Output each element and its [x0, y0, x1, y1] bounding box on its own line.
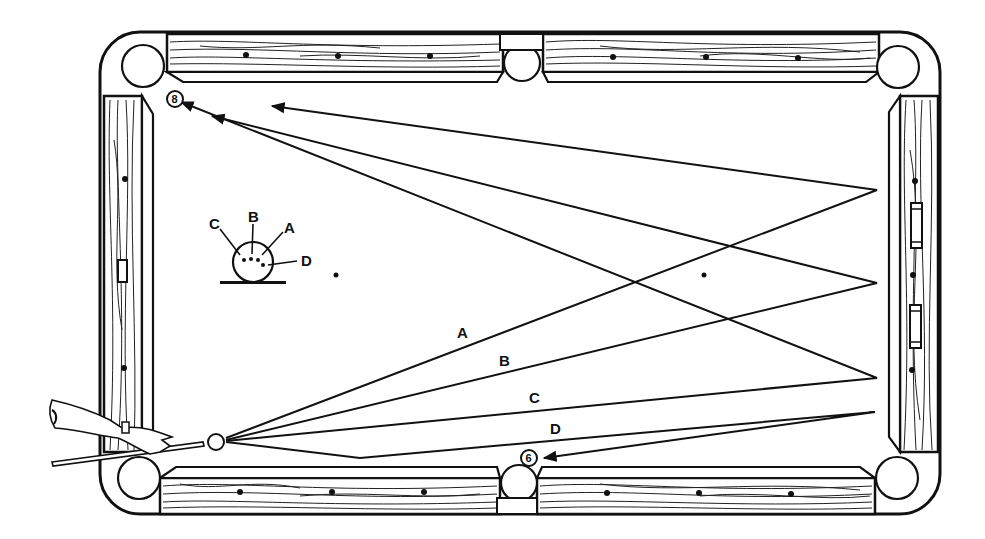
pocket-bottom-left	[118, 457, 160, 499]
ball-6: 6	[521, 450, 537, 466]
rail-bracket	[910, 305, 921, 348]
diamond-icon	[237, 489, 243, 495]
ball-6-number: 6	[526, 452, 532, 464]
diamond-icon	[703, 54, 709, 60]
top-rail-right	[543, 34, 879, 72]
path-label-b: B	[499, 352, 510, 369]
diamond-icon	[335, 53, 341, 59]
diamond-icon	[121, 365, 127, 371]
cue-ball	[208, 434, 224, 450]
rail-nameplate	[118, 260, 127, 282]
table-frame	[100, 32, 940, 514]
legend-label-b: B	[248, 208, 259, 225]
left-rail	[104, 96, 142, 452]
pocket-bottom-center	[501, 465, 537, 501]
diamond-icon	[122, 176, 128, 182]
path-label-d: D	[550, 420, 561, 437]
bottom-rail-left	[160, 478, 500, 514]
legend-label-c: C	[209, 215, 220, 232]
ball-8-number: 8	[172, 93, 178, 105]
diamond-icon	[329, 489, 335, 495]
diamond-icon	[696, 490, 702, 496]
diamond-icon	[427, 53, 433, 59]
path-label-c: C	[529, 389, 540, 406]
foot-spot-icon	[702, 273, 707, 278]
diamond-icon	[610, 54, 616, 60]
top-rail-left	[167, 34, 503, 72]
bottom-rail-right	[537, 478, 875, 514]
legend-label-d: D	[301, 252, 312, 269]
diamond-icon	[795, 55, 801, 61]
diamond-icon	[912, 178, 918, 184]
diamond-icon	[910, 272, 916, 278]
diamond-icon	[604, 490, 610, 496]
path-label-a: A	[457, 324, 468, 341]
pool-table-diagram: C B A D A B C D 8 6	[0, 0, 985, 539]
diamond-icon	[788, 491, 794, 497]
legend-baseline	[220, 281, 286, 284]
wristwatch-icon	[122, 422, 129, 433]
diamond-icon	[909, 367, 915, 373]
pocket-bottom-right	[876, 457, 918, 499]
pocket-top-left	[122, 45, 164, 87]
right-rail	[900, 96, 938, 452]
pocket-top-right	[877, 46, 919, 88]
legend-label-a: A	[284, 219, 295, 236]
rail-bracket	[911, 203, 922, 248]
diamond-icon	[421, 489, 427, 495]
ball-8: 8	[167, 91, 183, 107]
diamond-icon	[243, 52, 249, 58]
head-spot-icon	[334, 273, 339, 278]
